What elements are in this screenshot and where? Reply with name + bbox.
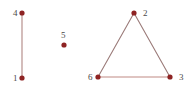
graph-node-6[interactable] [95, 74, 100, 79]
graph-edge-2-3 [134, 13, 170, 77]
node-layer [19, 10, 172, 80]
graph-node-4[interactable] [19, 10, 24, 15]
graph-figure: 123456 [0, 0, 195, 93]
graph-node-label-6: 6 [88, 73, 93, 82]
graph-edge-2-6 [98, 13, 134, 77]
graph-node-label-1: 1 [13, 74, 18, 83]
graph-node-label-3: 3 [179, 73, 184, 82]
graph-node-5[interactable] [61, 42, 66, 47]
graph-node-3[interactable] [167, 74, 172, 79]
graph-node-label-5: 5 [61, 31, 66, 40]
graph-canvas [0, 0, 195, 93]
graph-node-1[interactable] [19, 75, 24, 80]
edge-layer [22, 13, 170, 78]
graph-node-label-2: 2 [143, 9, 148, 18]
graph-node-2[interactable] [131, 10, 136, 15]
graph-node-label-4: 4 [13, 9, 18, 18]
